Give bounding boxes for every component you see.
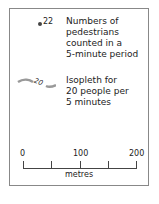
- scale-label-0: 0: [20, 149, 25, 158]
- scale-units: metres: [65, 170, 93, 179]
- scale-label-100: 100: [73, 149, 88, 158]
- scale-label-200: 200: [129, 149, 144, 158]
